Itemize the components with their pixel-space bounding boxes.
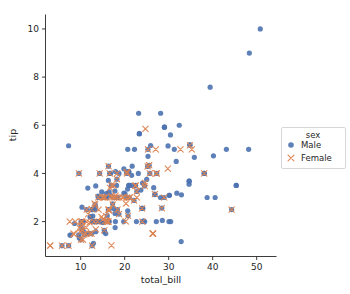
data-points-layer: [47, 26, 262, 248]
data-point-circle: [211, 153, 216, 158]
data-point-x: [123, 201, 128, 206]
data-point-x: [178, 147, 183, 152]
data-point-circle: [177, 123, 182, 128]
data-point-x: [109, 243, 114, 248]
data-point-circle: [113, 225, 118, 230]
data-point-circle: [167, 193, 172, 198]
data-point-x: [47, 243, 52, 248]
x-tick-label: 30: [163, 262, 175, 272]
y-tick-label: 6: [33, 121, 39, 131]
data-point-x: [150, 231, 155, 236]
x-tick-label: 10: [75, 262, 87, 272]
data-point-x: [165, 166, 170, 171]
data-point-circle: [165, 143, 170, 148]
y-axis-ticks: 246810: [28, 24, 46, 227]
data-point-circle: [224, 147, 229, 152]
data-point-circle: [132, 147, 137, 152]
data-point-x: [153, 147, 158, 152]
data-point-circle: [154, 219, 159, 224]
y-tick-label: 4: [33, 169, 39, 179]
y-tick-label: 10: [28, 24, 40, 34]
data-point-circle: [208, 85, 213, 90]
data-point-circle: [151, 185, 156, 190]
data-point-circle: [166, 219, 171, 224]
data-point-circle: [145, 154, 150, 159]
scatter-plot-figure: 1020304050 246810 total_bill tip sex Mal…: [0, 0, 350, 294]
y-tick-label: 8: [33, 72, 39, 82]
data-point-circle: [66, 143, 71, 148]
data-point-circle: [106, 178, 111, 183]
data-point-circle: [192, 155, 197, 160]
data-point-circle: [162, 125, 167, 130]
data-point-circle: [113, 219, 118, 224]
legend-label-male[interactable]: Male: [301, 140, 321, 150]
data-point-circle: [172, 147, 177, 152]
data-point-circle: [136, 111, 141, 116]
data-point-circle: [158, 111, 163, 116]
data-point-circle: [160, 218, 165, 223]
legend-title: sex: [306, 130, 321, 140]
data-point-circle: [205, 195, 210, 200]
legend[interactable]: sex MaleFemale: [282, 128, 346, 169]
data-point-circle: [134, 219, 139, 224]
data-point-circle: [99, 189, 104, 194]
data-point-circle: [213, 195, 218, 200]
data-point-circle: [168, 132, 173, 137]
x-tick-label: 50: [251, 262, 263, 272]
data-point-circle: [125, 147, 130, 152]
x-axis-ticks: 1020304050: [75, 257, 263, 272]
x-tick-label: 20: [119, 262, 131, 272]
x-tick-label: 40: [207, 262, 219, 272]
data-point-circle: [187, 179, 192, 184]
data-point-circle: [130, 164, 135, 169]
data-point-circle: [174, 191, 179, 196]
series-male: [59, 26, 262, 248]
plot-canvas: 1020304050 246810 total_bill tip sex Mal…: [0, 0, 350, 294]
data-point-circle: [258, 26, 263, 31]
data-point-circle: [179, 192, 184, 197]
x-axis-title: total_bill: [141, 274, 181, 285]
y-tick-label: 2: [33, 217, 39, 227]
data-point-circle: [93, 183, 98, 188]
data-point-circle: [85, 186, 90, 191]
data-point-circle: [246, 147, 251, 152]
data-point-circle: [288, 142, 294, 148]
y-axis-title: tip: [7, 129, 18, 141]
data-point-circle: [137, 131, 142, 136]
data-point-circle: [247, 50, 252, 55]
data-point-circle: [234, 183, 239, 188]
data-point-circle: [174, 159, 179, 164]
data-point-x: [143, 126, 148, 131]
data-point-circle: [179, 239, 184, 244]
data-point-circle: [136, 171, 141, 176]
series-female: [47, 126, 234, 248]
legend-label-female[interactable]: Female: [301, 153, 332, 163]
data-point-x: [67, 219, 72, 224]
data-point-circle: [125, 208, 130, 213]
